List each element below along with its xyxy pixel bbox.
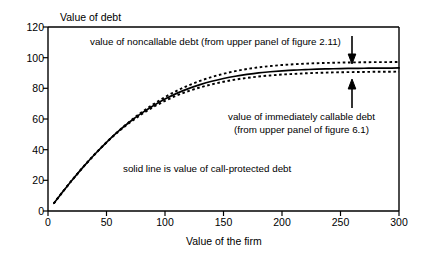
y-ticks-group [43, 27, 48, 211]
arrow-callable-head [348, 79, 356, 89]
x-ticks-group [48, 211, 399, 216]
series-line-immediately-callable [54, 72, 399, 204]
figure-container: Value of debt 120 100 80 60 40 20 0 0 50… [0, 0, 428, 262]
axes-group [48, 27, 399, 211]
series-group [54, 62, 399, 203]
series-line-call-protected [54, 68, 399, 203]
chart-plot-area [0, 0, 428, 262]
series-line-noncallable [54, 62, 399, 203]
